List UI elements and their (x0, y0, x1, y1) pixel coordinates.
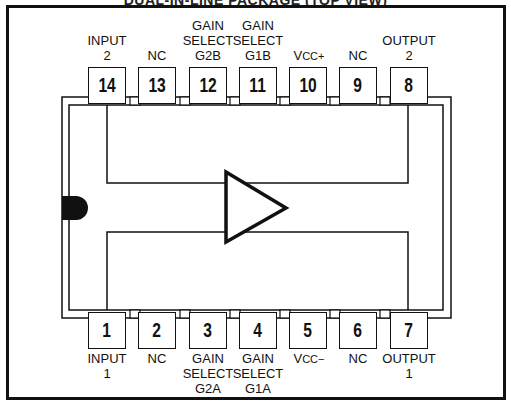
pin-11: 11 (239, 67, 277, 104)
pin-number: 14 (98, 74, 115, 97)
notch-icon (62, 196, 88, 220)
vcc-main: V (294, 48, 303, 63)
pin-9: 9 (339, 67, 377, 104)
pin-number: 1 (103, 319, 112, 342)
pin-3: 3 (189, 312, 227, 349)
pin-number: 4 (254, 319, 263, 342)
pin-number: 7 (405, 319, 414, 342)
pin-4: 4 (239, 312, 277, 349)
pin-number: 6 (354, 319, 363, 342)
pin-7: 7 (390, 312, 428, 349)
channel-2-path (107, 105, 408, 183)
pin-6: 6 (339, 312, 377, 349)
pin-number: 12 (199, 74, 216, 97)
pin-number: 3 (204, 319, 213, 342)
pin-13: 13 (138, 67, 176, 104)
pin-10: 10 (289, 67, 327, 104)
pin-7-label: OUTPUT 1 (369, 351, 449, 381)
pin-8-label: OUTPUT 2 (369, 33, 449, 63)
vcc-main: V (294, 351, 303, 366)
pin-number: 8 (405, 74, 414, 97)
pin-14: 14 (88, 67, 126, 104)
pin-number: 9 (354, 74, 363, 97)
pin-8: 8 (390, 67, 428, 104)
pin-number: 10 (299, 74, 316, 97)
pin-number: 13 (148, 74, 165, 97)
pin-number: 2 (153, 319, 162, 342)
pin-5: 5 (289, 312, 327, 349)
channel-1-path (107, 232, 408, 310)
pin-number: 5 (304, 319, 313, 342)
pin-12: 12 (189, 67, 227, 104)
pin-2: 2 (138, 312, 176, 349)
pin-1: 1 (88, 312, 126, 349)
pin-number: 11 (250, 74, 267, 97)
